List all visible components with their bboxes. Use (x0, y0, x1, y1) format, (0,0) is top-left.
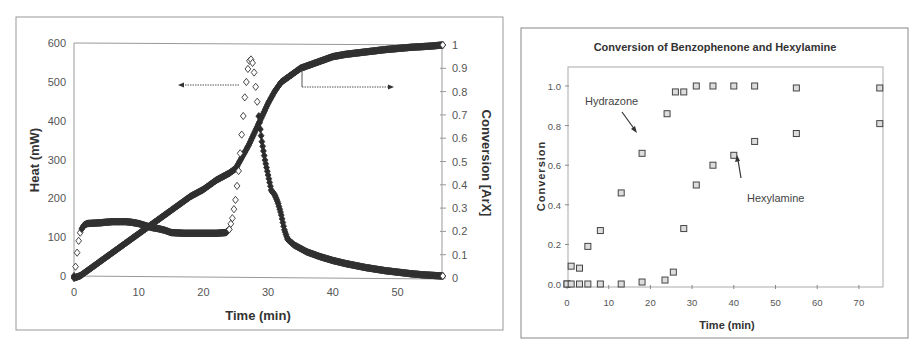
left-y-axis-label: Heat (mW) (27, 128, 42, 192)
y2-tick-label: 0.9 (452, 62, 467, 74)
y-tick-label: 0.4 (548, 200, 561, 211)
hydrazone-point (597, 228, 603, 234)
x-tick-label: 60 (812, 297, 823, 308)
hexylamine-point (618, 281, 624, 287)
left-y2-axis-label: Conversion [ArX] (479, 110, 494, 217)
x-tick-label: 10 (133, 286, 145, 298)
hexylamine-point (681, 226, 687, 232)
left-chart-frame (16, 17, 503, 330)
y-tick-label: 0.6 (548, 160, 561, 171)
hexylamine-point (577, 281, 583, 287)
left-x-axis-label: Time (min) (225, 308, 291, 323)
right-x-axis-label: Time (min) (699, 319, 755, 331)
x-tick-label: 20 (197, 286, 209, 298)
x-tick-label: 10 (603, 297, 614, 308)
hydrazone-point (693, 83, 699, 89)
y2-tick-label: 0.3 (452, 202, 467, 214)
hydrazone-point (681, 89, 687, 95)
y-tick-label: 600 (48, 37, 66, 49)
x-tick-label: 30 (687, 297, 698, 308)
y2-tick-label: 0.2 (452, 225, 467, 237)
y2-tick-label: 0.4 (452, 179, 467, 191)
hydrazone-point (672, 89, 678, 95)
hexylamine-point (568, 281, 574, 287)
y-tick-label: 500 (48, 76, 66, 88)
hydrazone-point (877, 85, 883, 91)
hexylamine-point (585, 281, 591, 287)
right-chart-title: Conversion of Benzophenone and Hexylamin… (594, 41, 837, 53)
chart-canvas: 0100200300400500600 00.10.20.30.40.50.60… (0, 0, 918, 354)
hydrazone-point (731, 83, 737, 89)
y-tick-label: 100 (48, 231, 66, 243)
x-tick-label: 50 (391, 286, 403, 298)
x-tick-label: 50 (770, 297, 781, 308)
hexylamine-point (752, 138, 758, 144)
x-tick-label: 0 (71, 286, 77, 298)
y-tick-label: 0.8 (548, 121, 561, 132)
y2-tick-label: 0 (452, 272, 458, 284)
y-tick-label: 400 (48, 115, 66, 127)
y-tick-label: 0 (60, 270, 66, 282)
y2-tick-label: 0.1 (452, 249, 467, 261)
hexylamine-point (670, 269, 676, 275)
hydrazone-point (752, 83, 758, 89)
y2-tick-label: 0.8 (452, 86, 467, 98)
right-y-axis-label: Conversion (535, 141, 547, 212)
y-tick-label: 0.0 (548, 279, 561, 290)
hexylamine-point (597, 281, 603, 287)
y2-tick-label: 0.5 (452, 156, 467, 168)
hexylamine-point (731, 152, 737, 158)
x-tick-label: 0 (564, 297, 569, 308)
right-chart-frame (521, 28, 908, 338)
y-tick-label: 1.0 (548, 81, 561, 92)
x-tick-label: 40 (729, 297, 740, 308)
y2-tick-label: 0.7 (452, 109, 467, 121)
y2-tick-label: 1 (452, 39, 458, 51)
hydrazone-point (618, 190, 624, 196)
hydrazone-point (568, 263, 574, 269)
hexylamine-point (877, 121, 883, 127)
hexylamine-point (793, 131, 799, 137)
x-tick-label: 40 (327, 286, 339, 298)
x-tick-label: 70 (854, 297, 865, 308)
hexylamine-point (693, 182, 699, 188)
y-tick-label: 0.2 (548, 239, 561, 250)
hydrazone-point (577, 265, 583, 271)
hexylamine-annotation: Hexylamine (747, 192, 804, 204)
hydrazone-point (793, 85, 799, 91)
hydrazone-annotation: Hydrazone (585, 95, 638, 107)
hydrazone-point (585, 243, 591, 249)
hydrazone-point (710, 83, 716, 89)
hexylamine-point (662, 277, 668, 283)
y-tick-label: 300 (48, 154, 66, 166)
y-tick-label: 200 (48, 192, 66, 204)
x-tick-label: 30 (262, 286, 274, 298)
x-tick-label: 20 (645, 297, 656, 308)
y2-tick-label: 0.6 (452, 132, 467, 144)
hexylamine-point (710, 162, 716, 168)
hydrazone-point (664, 111, 670, 117)
hydrazone-point (639, 150, 645, 156)
hexylamine-point (639, 279, 645, 285)
